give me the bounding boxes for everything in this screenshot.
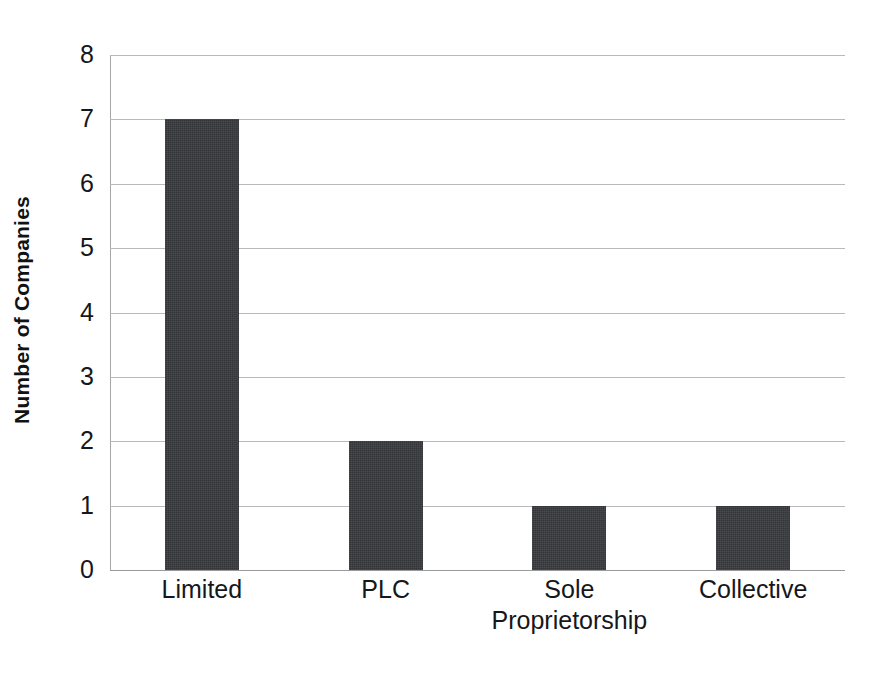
- x-tick-label-line: Collective: [699, 575, 807, 603]
- y-tick-label: 3: [48, 364, 94, 389]
- x-tick-label: Limited: [110, 574, 294, 605]
- x-tick-label: Collective: [661, 574, 845, 605]
- y-tick-label: 5: [48, 235, 94, 260]
- y-tick-label: 7: [48, 106, 94, 131]
- gridline: [110, 55, 845, 56]
- bar: [165, 119, 239, 570]
- x-tick-label: SoleProprietorship: [478, 574, 662, 635]
- y-axis-title-text: Number of Companies: [10, 196, 34, 424]
- bar: [349, 441, 423, 570]
- x-tick-label-line: PLC: [361, 575, 410, 603]
- y-tick-label: 4: [48, 300, 94, 325]
- y-tick-label: 1: [48, 493, 94, 518]
- bar: [532, 506, 606, 570]
- chart-title-cropped: [0, 0, 873, 10]
- y-tick-label: 0: [48, 557, 94, 582]
- plot-area: [110, 55, 845, 570]
- y-axis-title: Number of Companies: [0, 0, 44, 620]
- y-tick-label: 8: [48, 42, 94, 67]
- x-tick-label-line: Limited: [162, 575, 243, 603]
- bar: [716, 506, 790, 570]
- y-axis-tick-labels: 876543210: [42, 55, 94, 570]
- bar-chart-figure: Number of Companies 876543210 LimitedPLC…: [0, 0, 873, 691]
- x-axis-tick-labels: LimitedPLCSoleProprietorshipCollective: [110, 574, 845, 684]
- y-tick-label: 6: [48, 171, 94, 196]
- x-axis-baseline: [110, 570, 845, 571]
- x-tick-label: PLC: [294, 574, 478, 605]
- x-tick-label-line: Sole: [544, 575, 594, 603]
- y-tick-label: 2: [48, 428, 94, 453]
- x-tick-label-line: Proprietorship: [478, 605, 662, 636]
